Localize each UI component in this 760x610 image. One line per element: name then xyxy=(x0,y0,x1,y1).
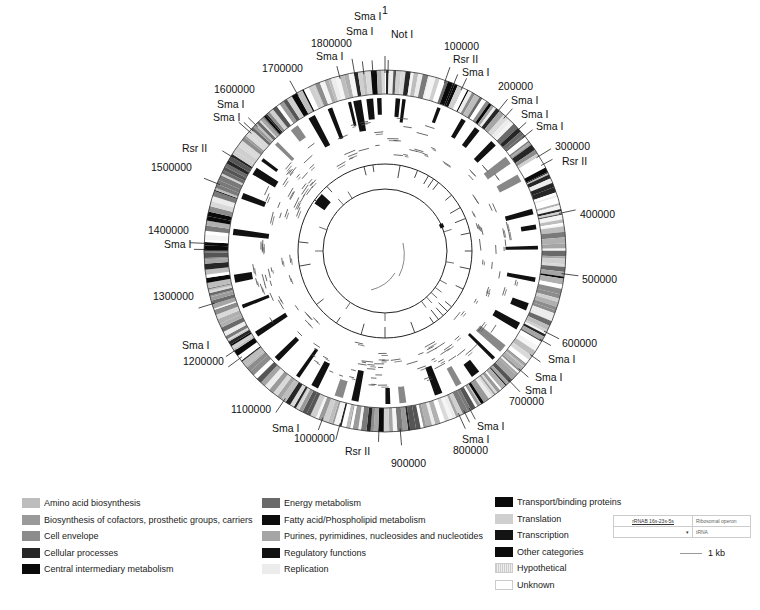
legend-swatch xyxy=(22,564,40,574)
legend-swatch xyxy=(22,498,40,508)
restriction-site-label: Rsr II xyxy=(453,53,478,65)
legend-label: Regulatory functions xyxy=(284,548,366,558)
restriction-site-label: Sma I xyxy=(164,238,191,250)
restriction-site-label: Rsr II xyxy=(182,142,207,154)
restriction-site-label: Sma I xyxy=(548,353,575,365)
legend-swatch xyxy=(495,563,513,573)
restriction-site-label: Sma I xyxy=(535,371,562,383)
restriction-site-label: Sma I xyxy=(521,108,548,120)
legend-swatch xyxy=(22,548,40,558)
legend-label: Purines, pyrimidines, nucleosides and nu… xyxy=(284,531,483,541)
legend-item: Transport/binding proteins xyxy=(495,494,621,510)
restriction-site-label: Sma I xyxy=(217,98,244,110)
tick-label: 1 xyxy=(382,4,388,16)
legend-item: Hypothetical xyxy=(495,560,621,576)
restriction-site-label: Sma I xyxy=(511,94,538,106)
tick-label: 1600000 xyxy=(214,83,255,95)
tick-label: 1000000 xyxy=(294,432,335,444)
tick-label: 1100000 xyxy=(231,403,271,415)
legend-item: Regulatory functions xyxy=(262,545,483,561)
genome-map: 1100000200000300000400000500000600000700… xyxy=(0,0,760,490)
key-row-trna: ▾ tRNA xyxy=(614,527,751,538)
legend-swatch xyxy=(262,515,280,525)
legend-item: Fatty acid/Phospholipid metabolism xyxy=(262,512,483,528)
legend-label: Hypothetical xyxy=(517,563,567,573)
legend-label: Fatty acid/Phospholipid metabolism xyxy=(284,515,426,525)
tick-label: 900000 xyxy=(391,457,426,469)
scale-bar-label: 1 kb xyxy=(708,548,725,558)
legend-label: Unknown xyxy=(517,580,555,590)
tick-label: 800000 xyxy=(453,444,488,456)
tick-label: 1500000 xyxy=(151,161,192,173)
legend-swatch xyxy=(495,580,513,590)
tick-label: 300000 xyxy=(555,140,590,152)
legend-swatch xyxy=(495,547,513,557)
legend-item: Purines, pyrimidines, nucleosides and nu… xyxy=(262,528,483,544)
tick-label: 100000 xyxy=(444,40,479,52)
tick-label: 700000 xyxy=(509,395,544,407)
tick-label: 1300000 xyxy=(153,290,194,302)
legend-swatch xyxy=(262,548,280,558)
restriction-site-label: Rsr II xyxy=(345,445,370,457)
restriction-site-label: Sma I xyxy=(536,120,563,132)
tick-label: 1700000 xyxy=(262,62,303,74)
legend-label: Amino acid biosynthesis xyxy=(44,498,141,508)
legend-item: Cell envelope xyxy=(22,528,253,544)
scale-bar-line xyxy=(680,553,702,554)
legend-item: Central intermediary metabolism xyxy=(22,561,253,577)
legend-label: Cell envelope xyxy=(44,531,99,541)
ribosomal-operon-label: Ribosomal operon xyxy=(693,516,751,527)
restriction-site-label: Sma I xyxy=(213,111,240,123)
restriction-site-label: Sma I xyxy=(462,66,489,78)
restriction-site-label: Sma I xyxy=(182,339,209,351)
legend-column-2: Energy metabolismFatty acid/Phospholipid… xyxy=(262,495,483,578)
legend-label: Other categories xyxy=(517,547,584,557)
legend-label: Cellular processes xyxy=(44,548,118,558)
legend-label: Biosynthesis of cofactors, prosthetic gr… xyxy=(44,515,253,525)
outer-category-ring xyxy=(204,70,566,432)
legend-swatch xyxy=(495,514,513,524)
legend-swatch xyxy=(262,498,280,508)
restriction-site-label: Sma I xyxy=(477,420,504,432)
category-track-ring xyxy=(233,98,538,404)
legend-item: Translation xyxy=(495,511,621,527)
legend-label: Translation xyxy=(517,514,561,524)
trna-symbol: ▾ xyxy=(614,527,693,538)
tick-label: 600000 xyxy=(562,337,597,349)
restriction-site-label: Sma I xyxy=(316,50,343,62)
restriction-site-label: Sma I xyxy=(272,422,299,434)
legend-swatch xyxy=(22,531,40,541)
legend-swatch xyxy=(495,530,513,540)
legend-label: Transcription xyxy=(517,530,569,540)
legend-column-1: Amino acid biosynthesisBiosynthesis of c… xyxy=(22,495,253,578)
legend-label: Replication xyxy=(284,564,329,574)
scale-bar: 1 kb xyxy=(680,548,725,558)
legend-item: Other categories xyxy=(495,544,621,560)
legend-swatch xyxy=(495,497,513,507)
legend-item: Replication xyxy=(262,561,483,577)
tick-label: 400000 xyxy=(580,208,615,220)
legend-swatch xyxy=(262,564,280,574)
legend-label: Energy metabolism xyxy=(284,498,361,508)
tick-label: 1800000 xyxy=(311,37,352,49)
feature-key-table: rRNAB 16s-23s-5s Ribosomal operon ▾ tRNA xyxy=(613,515,751,538)
restriction-site-label: Sma I xyxy=(354,10,381,22)
tick-label: 1400000 xyxy=(148,224,189,236)
legend-item: Unknown xyxy=(495,577,621,593)
tick-label: 500000 xyxy=(582,273,617,285)
legend-item: Energy metabolism xyxy=(262,495,483,511)
restriction-site-label: Sma I xyxy=(462,433,489,445)
trna-label: tRNA xyxy=(693,527,751,538)
ribosomal-operon-symbol: rRNAB 16s-23s-5s xyxy=(614,516,693,527)
restriction-site-label: Sma I xyxy=(525,384,552,396)
tick-label: 200000 xyxy=(498,80,533,92)
restriction-site-label: Not I xyxy=(391,28,413,40)
legend-item: Cellular processes xyxy=(22,545,253,561)
key-row-ribosomal-operon: rRNAB 16s-23s-5s Ribosomal operon xyxy=(614,516,751,527)
legend-item: Biosynthesis of cofactors, prosthetic gr… xyxy=(22,512,253,528)
legend-item: Transcription xyxy=(495,527,621,543)
legend-item: Amino acid biosynthesis xyxy=(22,495,253,511)
inner-scale-rings xyxy=(298,164,472,338)
legend-label: Transport/binding proteins xyxy=(517,497,621,507)
restriction-site-label: Rsr II xyxy=(562,155,587,167)
